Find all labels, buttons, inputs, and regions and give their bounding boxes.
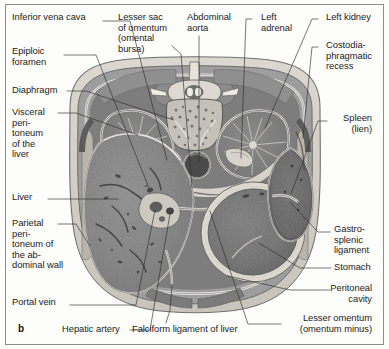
label-abdominal-aorta: Abdominal aorta [187,12,231,33]
label-parietal-peritoneum-of-abdominal-wall: Parietal peri- toneum of the ab- dominal… [12,218,63,271]
label-lesser-omentum: Lesser omentum (omentum minus) [272,313,372,334]
label-spleen: Spleen (lien) [300,113,372,134]
portal-vein-structure [150,202,162,212]
label-portal-vein: Portal vein [12,297,56,308]
label-hepatic-artery: Hepatic artery [62,324,120,335]
label-costodiaphragmatic-recess: Costodia- phragmatic recess [326,40,372,72]
label-liver: Liver [12,192,32,203]
label-epiploic-foramen: Epiploic foramen [12,46,46,67]
label-visceral-peritoneum-of-liver: Visceral peri- toneum of the liver [12,107,45,160]
label-diaphragm: Diaphragm [12,85,57,96]
label-left-adrenal: Left adrenal [261,12,292,33]
label-stomach: Stomach [334,262,371,273]
label-gastrosplenic-ligament: Gastro- splenic ligament [334,224,369,256]
label-lesser-sac-of-omentum: Lesser sac of omentum (omental bursa) [118,12,167,54]
figure-root: Inferior vena cava Lesser sac of omentum… [0,0,389,349]
label-peritoneal-cavity: Peritoneal cavity [290,283,372,304]
panel-letter-b: b [18,323,24,334]
label-falciform-ligament-of-liver: Falciform ligament of liver [132,324,237,335]
label-left-kidney: Left kidney [326,12,371,23]
hepatic-artery-structure [166,208,173,214]
label-inferior-vena-cava: Inferior vena cava [12,12,86,23]
